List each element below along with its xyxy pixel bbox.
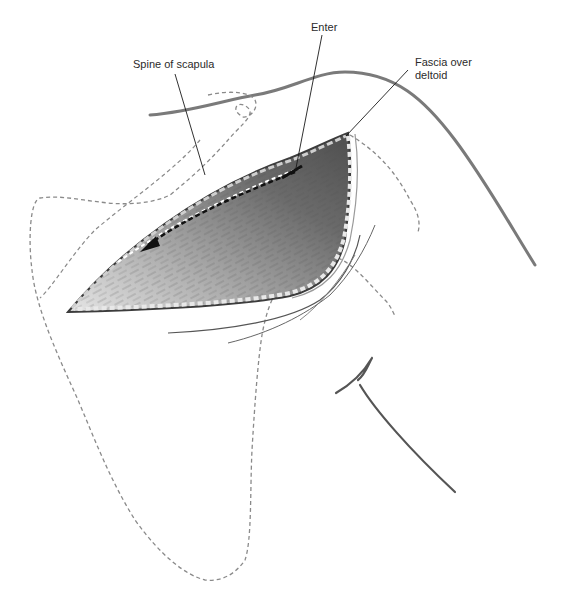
label-enter: Enter [311,21,337,34]
label-spine-of-scapula: Spine of scapula [133,58,214,71]
axillary-crease [336,358,455,492]
label-fascia-over-deltoid: Fascia over deltoid [415,56,472,82]
label-fascia-over-deltoid-line2: deltoid [415,69,472,82]
scapula-dashed-outline [30,92,278,580]
humeral-head-dashed-curve [350,135,419,232]
anatomical-illustration [0,0,562,599]
label-fascia-over-deltoid-line1: Fascia over [415,56,472,69]
lower-dashed-curve [338,258,395,316]
leader-line-spine-of-scapula [175,74,205,175]
leader-line-fascia-over-deltoid [346,70,408,136]
